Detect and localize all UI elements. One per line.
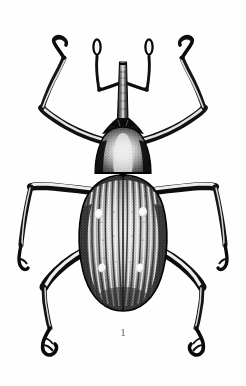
pronotum xyxy=(92,124,154,176)
spot-left-lower xyxy=(98,263,106,272)
spot-right-lower xyxy=(136,263,144,272)
spot-left-upper xyxy=(95,209,103,219)
figure-number-label: 1 xyxy=(0,326,246,339)
spot-right-upper xyxy=(139,207,147,217)
rostrum xyxy=(118,62,129,120)
illustration-plate: 1 xyxy=(0,0,246,386)
antenna-right xyxy=(126,39,153,90)
elytra xyxy=(79,173,167,319)
antenna-left xyxy=(93,39,120,90)
